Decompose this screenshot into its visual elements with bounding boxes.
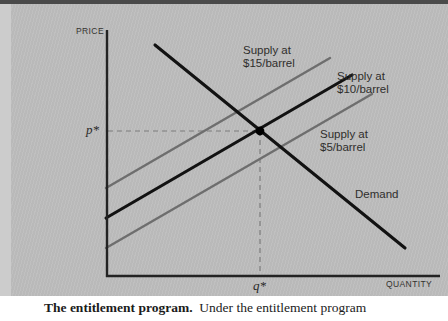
supply-curve-5-barrel	[106, 94, 372, 248]
quantity-tick-label: q*	[253, 278, 266, 294]
demand-label: Demand	[355, 188, 398, 201]
supply-10-label-line1: Supply at	[337, 70, 385, 83]
supply-5-label-line1: Supply at	[320, 128, 368, 141]
caption-body-text: Under the entitlement program	[193, 300, 367, 315]
figure-caption: The entitlement program. Under the entit…	[44, 300, 448, 316]
supply-10-label-line2: $10/barrel	[337, 83, 389, 96]
supply-15-label-line2: $15/barrel	[243, 57, 295, 70]
price-tick-label: p*	[86, 122, 99, 138]
supply-demand-chart	[0, 0, 448, 321]
figure-page: PRICE QUANTITY p* q* Supply at $15/barre…	[0, 0, 448, 321]
x-axis-title: QUANTITY	[386, 279, 432, 289]
supply-curve-10-barrel	[106, 75, 352, 218]
equilibrium-point-dot	[256, 127, 265, 136]
supply-5-label-line2: $5/barrel	[320, 141, 365, 154]
supply-curve-15-barrel	[106, 58, 330, 188]
caption-bold-title: The entitlement program.	[44, 300, 193, 315]
supply-15-label-line1: Supply at	[243, 44, 291, 57]
y-axis-title: PRICE	[76, 26, 104, 36]
